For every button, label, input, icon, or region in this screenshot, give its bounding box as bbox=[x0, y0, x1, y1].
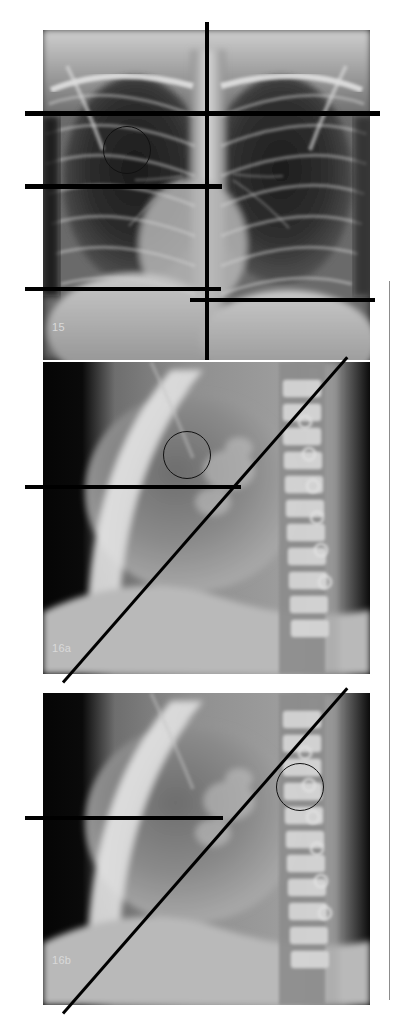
line-lateral-16a bbox=[25, 485, 241, 489]
line-apex-pa bbox=[25, 111, 380, 116]
line-lower-right-pa bbox=[190, 298, 375, 302]
line-mid-pa bbox=[25, 184, 222, 189]
panel-label-16a: 16a bbox=[52, 643, 71, 654]
roi-circle-16a bbox=[163, 431, 211, 479]
line-lateral-16b bbox=[25, 816, 223, 820]
midline-pa bbox=[205, 22, 209, 360]
panel-label-15: 15 bbox=[52, 322, 65, 333]
radiology-figure: 15 bbox=[0, 0, 397, 1029]
roi-circle-16b bbox=[276, 763, 324, 811]
panel-label-16b: 16b bbox=[52, 955, 71, 966]
roi-circle-15 bbox=[103, 126, 151, 174]
line-lower-left-pa bbox=[25, 287, 221, 291]
margin-rule-right bbox=[389, 281, 390, 1000]
